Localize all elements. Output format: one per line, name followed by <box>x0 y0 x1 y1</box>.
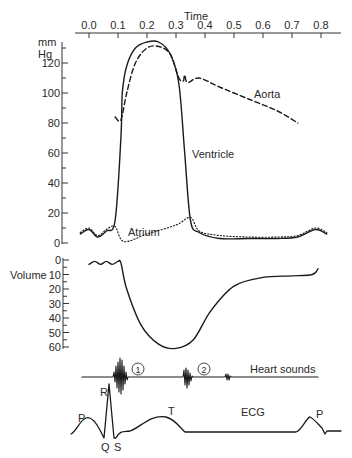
pressure-tick-label: 120 <box>42 57 60 69</box>
volume-tick-label: 10 <box>49 269 61 281</box>
ecg-t-wave-label: T <box>168 405 175 417</box>
heart-sounds-label: Heart sounds <box>250 363 316 375</box>
ecg-q-wave-label: Q <box>101 441 110 453</box>
ventricle-label: Ventricle <box>192 148 234 160</box>
ecg-r-wave-label: R <box>100 386 108 398</box>
ecg-p-wave-label-2: P <box>316 408 323 420</box>
ventricular-volume-curve <box>89 260 318 348</box>
ecg-waveform <box>71 384 341 438</box>
time-tick-label: 0.2 <box>139 19 154 31</box>
volume-tick-label: 40 <box>49 312 61 324</box>
first-heart-sound-number: 1 <box>135 365 140 375</box>
time-tick-label: 0.3 <box>168 19 183 31</box>
volume-axis-label: Volume <box>10 269 47 281</box>
volume-tick-label: 30 <box>49 298 61 310</box>
ecg-trace: P Q R S T P ECG <box>71 384 341 453</box>
heart-sounds-trace: 1 2 Heart sounds <box>82 358 318 394</box>
volume-tick-label: 20 <box>49 283 61 295</box>
time-tick-label: 0.5 <box>226 19 241 31</box>
time-tick-label: 0.7 <box>284 19 299 31</box>
pressure-tick-label: 0 <box>54 237 60 249</box>
atrium-label: Atrium <box>128 226 160 238</box>
pressure-tick-label: 20 <box>48 207 60 219</box>
cardiac-cycle-chart: Time 0.00.10.20.30.40.50.60.70.8 mm Hg 0… <box>0 0 352 458</box>
aorta-label: Aorta <box>254 88 281 100</box>
time-tick-label: 0.6 <box>255 19 270 31</box>
ecg-p-wave-label: P <box>78 412 85 424</box>
ecg-label: ECG <box>241 406 265 418</box>
volume-tick-label: 50 <box>49 327 61 339</box>
pressure-tick-label: 80 <box>48 117 60 129</box>
ecg-s-wave-label: S <box>114 441 121 453</box>
aorta-pressure-curve <box>115 46 298 123</box>
volume-tick-label: 60 <box>49 341 61 353</box>
pressure-panel: mm Hg 020406080100120 Aorta Ventricle At… <box>38 36 327 249</box>
time-tick-label: 0.0 <box>81 19 96 31</box>
time-tick-label: 0.4 <box>197 19 212 31</box>
volume-panel: Volume 0102030405060 <box>10 254 318 353</box>
ventricle-pressure-curve <box>80 41 326 239</box>
pressure-tick-label: 100 <box>42 87 60 99</box>
time-tick-label: 0.8 <box>313 19 328 31</box>
time-tick-label: 0.1 <box>110 19 125 31</box>
pressure-unit-label-mm: mm <box>38 36 56 48</box>
volume-tick-label: 0 <box>55 254 61 266</box>
time-axis: Time 0.00.10.20.30.40.50.60.70.8 <box>75 10 341 38</box>
pressure-tick-label: 40 <box>48 177 60 189</box>
pressure-tick-label: 60 <box>48 147 60 159</box>
second-heart-sound-number: 2 <box>201 365 206 375</box>
